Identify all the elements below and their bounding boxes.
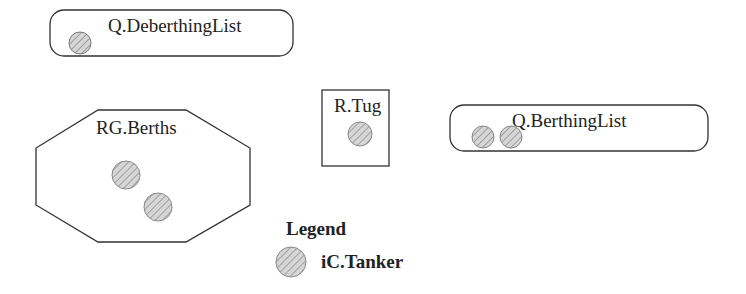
tanker-entity-icon — [472, 126, 494, 148]
tanker-entity-icon — [112, 161, 140, 189]
queue-deberthing-list: Q.DeberthingList — [50, 10, 293, 56]
resource-tug: R.Tug — [322, 90, 389, 166]
queue-deberthing-label: Q.DeberthingList — [108, 15, 242, 36]
legend-item-label: iC.Tanker — [321, 251, 404, 272]
resource-tug-label: R.Tug — [334, 95, 382, 116]
queue-berthing-label: Q.BerthingList — [512, 110, 627, 131]
resource-group-berths: RG.Berths — [36, 110, 250, 242]
tanker-entity-icon — [69, 32, 91, 54]
tanker-entity-icon — [500, 126, 522, 148]
resource-group-berths-label: RG.Berths — [96, 117, 177, 138]
tanker-entity-icon — [348, 122, 372, 146]
diagram-canvas: Q.DeberthingList RG.Berths R.Tug Q.Berth… — [0, 0, 746, 294]
tanker-entity-icon — [144, 193, 172, 221]
legend: Legend iC.Tanker — [276, 218, 404, 277]
tanker-legend-icon — [276, 247, 306, 277]
queue-berthing-list: Q.BerthingList — [450, 105, 708, 151]
legend-title: Legend — [286, 218, 347, 239]
